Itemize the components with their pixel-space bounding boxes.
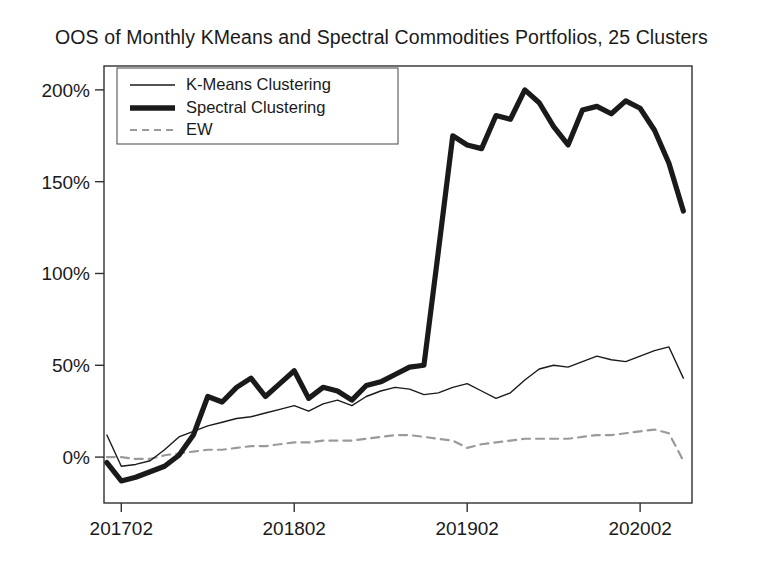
data-series-layer	[107, 90, 683, 481]
y-tick-label: 50%	[52, 355, 90, 376]
legend-label-ew: EW	[186, 120, 213, 138]
chart-figure: OOS of Monthly KMeans and Spectral Commo…	[0, 0, 763, 567]
x-tick-label: 201702	[90, 518, 153, 539]
x-tick-label: 201902	[435, 518, 498, 539]
series-line-k-means-clustering	[107, 347, 683, 466]
series-line-spectral-clustering	[107, 90, 683, 481]
plot-area: 0%50%100%150%200% 2017022018022019022020…	[0, 0, 763, 567]
x-tick-label: 201802	[263, 518, 326, 539]
y-tick-label: 100%	[41, 263, 90, 284]
y-tick-label: 150%	[41, 172, 90, 193]
legend-label-kmeans: K-Means Clustering	[186, 75, 331, 93]
y-tick-label: 0%	[63, 447, 91, 468]
x-tick-label: 202002	[608, 518, 671, 539]
y-axis-ticks: 0%50%100%150%200%	[41, 80, 104, 468]
x-axis-ticks: 201702201802201902202002	[90, 503, 672, 539]
chart-legend: K-Means Clustering Spectral Clustering E…	[117, 68, 398, 144]
y-tick-label: 200%	[41, 80, 90, 101]
legend-label-spectral: Spectral Clustering	[186, 98, 325, 116]
